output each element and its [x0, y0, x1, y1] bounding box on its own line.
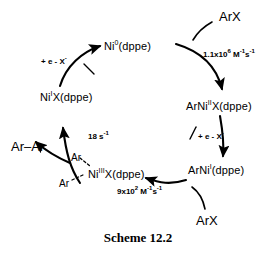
node-ni0-suffix: (dppe) [119, 40, 151, 52]
electron-transfer-label-left: + e - X- [41, 57, 67, 66]
rate-reductive-elimination: 18 s-1 [88, 132, 109, 141]
rate-at-coefficient: 9x10 [117, 187, 135, 196]
reaction-arrow-layer [0, 0, 276, 255]
rate-at-units-m: M [138, 187, 147, 196]
node-ni1-x-dppe: NiIX(dppe) [40, 91, 92, 103]
product-ar-ar: Ar–Ar [11, 139, 44, 154]
node-arni1-dppe: ArNiI(dppe) [188, 164, 244, 176]
ar-top-dashed-bond [80, 158, 90, 166]
electron-transfer-label-right: + e - X- [198, 132, 224, 141]
rate-re-coefficient: 18 s [88, 132, 104, 141]
scheme-caption: Scheme 12.2 [0, 230, 276, 246]
et-left-tick [84, 64, 94, 74]
node-arni2-prefix: ArNi [186, 100, 208, 112]
node-ni1-prefix: Ni [40, 91, 51, 103]
arrow-aryl-transfer [146, 178, 186, 183]
arx-bottom-feed-line [192, 187, 205, 209]
node-ni3-x-dppe: NiIIIX(dppe) [88, 168, 145, 180]
node-ni3-prefix: Ni [88, 168, 99, 180]
reagent-arx-bottom: ArX [196, 213, 218, 228]
node-arni1-suffix: (dppe) [212, 164, 244, 176]
ligand-ar-bottom: Ar [59, 178, 69, 189]
rate-aryl-transfer: 9x102 M-1s-1 [117, 187, 162, 196]
node-ni0-prefix: Ni [104, 40, 115, 52]
rate-oa-units-m: M [231, 50, 240, 59]
et-left-charge: - [65, 55, 67, 61]
ligand-ar-top: Ar [71, 152, 81, 163]
rate-re-exponent: -1 [104, 130, 109, 136]
arrow-regeneration [60, 46, 100, 86]
node-arni2-x-dppe: ArNiIIX(dppe) [186, 100, 252, 112]
node-ni3-suffix: X(dppe) [105, 168, 145, 180]
node-ni1-suffix: X(dppe) [53, 91, 93, 103]
reagent-arx-top: ArX [219, 9, 241, 24]
rate-oxidative-addition: 1.1x106 M-1s-1 [203, 50, 255, 59]
rate-oa-coefficient: 1.1x10 [203, 50, 227, 59]
et-right-text: + e - X [198, 132, 222, 141]
rate-oa-units-s-exp: -1 [250, 48, 255, 54]
et-left-text: + e - X [41, 57, 65, 66]
rate-at-units-s-exp: -1 [157, 185, 162, 191]
et-right-charge: - [222, 130, 224, 136]
arx-top-feed-line [193, 22, 212, 40]
node-arni2-suffix: X(dppe) [212, 100, 252, 112]
et-right-tick [190, 127, 196, 139]
scheme-figure: ArX ArX Ar–Ar Ni0(dppe) ArNiIIX(dppe) Ar… [0, 0, 276, 255]
node-ni0-dppe: Ni0(dppe) [104, 40, 151, 52]
node-arni1-prefix: ArNi [188, 164, 210, 176]
